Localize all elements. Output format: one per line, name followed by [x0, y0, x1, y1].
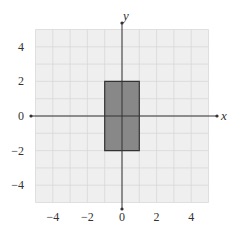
- x-tick-label: 2: [154, 210, 160, 224]
- y-tick-label: 4: [18, 40, 24, 54]
- y-axis-label: y: [121, 8, 129, 23]
- coordinate-plane: xy−4−2024−4−2024: [0, 0, 236, 236]
- x-tick-label: 0: [119, 210, 125, 224]
- x-tick-label: −2: [81, 210, 94, 224]
- y-tick-label: −4: [11, 178, 24, 192]
- x-axis-right-arrow-icon: [215, 114, 218, 117]
- x-tick-label: −4: [46, 210, 59, 224]
- y-tick-label: 0: [18, 109, 24, 123]
- x-axis-label: x: [220, 108, 227, 123]
- x-tick-label: 4: [188, 210, 194, 224]
- y-tick-label: −2: [11, 144, 24, 158]
- y-tick-label: 2: [18, 74, 24, 88]
- x-axis-left-arrow-icon: [29, 114, 32, 117]
